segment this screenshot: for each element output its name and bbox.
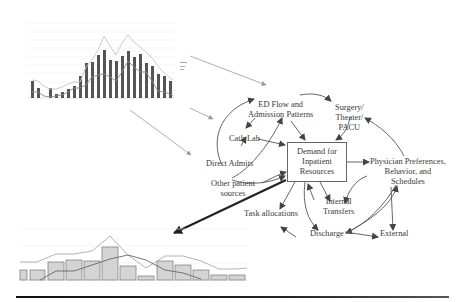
ed-flow-line-2: Admission Patterns: [248, 110, 313, 120]
demand-line-2: Inpatient: [297, 157, 337, 167]
internal-transfers-line-2: Transfers: [323, 207, 354, 217]
node-direct-admits: Direct Admits: [206, 159, 253, 169]
diagram-canvas: ED Flow and Admission Patterns Surgery/ …: [0, 0, 469, 302]
node-ed-flow: ED Flow and Admission Patterns: [248, 100, 313, 120]
physician-line-3: Schedules: [370, 177, 446, 187]
surgery-line-3: PACU: [335, 123, 364, 133]
physician-line-2: Behavior, and: [370, 167, 446, 177]
hourly-demand-chart: [28, 23, 187, 98]
internal-transfers-line-1: Internal: [323, 197, 354, 207]
node-demand-inpatient-resources: Demand for Inpatient Resources: [287, 142, 347, 182]
surgery-line-2: Theater/: [335, 113, 364, 123]
other-sources-line-2: sources: [211, 189, 255, 199]
node-external: External: [380, 229, 408, 239]
bottom-rule: [16, 296, 449, 298]
demand-line-3: Resources: [297, 167, 337, 177]
node-internal-transfers: Internal Transfers: [323, 197, 354, 217]
ed-flow-line-1: ED Flow and: [248, 100, 313, 110]
node-discharge: Discharge: [310, 229, 344, 239]
node-task-allocations: Task allocations: [244, 209, 298, 219]
surgery-line-1: Surgery/: [335, 103, 364, 113]
node-physician: Physician Preferences, Behavior, and Sch…: [370, 157, 446, 187]
diagram-svg: [0, 0, 469, 302]
physician-line-1: Physician Preferences,: [370, 157, 446, 167]
daily-demand-chart: [20, 229, 247, 280]
other-sources-line-1: Other patient: [211, 179, 255, 189]
node-cath-lab: Cath Lab: [229, 134, 260, 144]
node-surgery: Surgery/ Theater/ PACU: [335, 103, 364, 133]
node-other-sources: Other patient sources: [211, 179, 255, 199]
demand-line-1: Demand for: [297, 147, 337, 157]
